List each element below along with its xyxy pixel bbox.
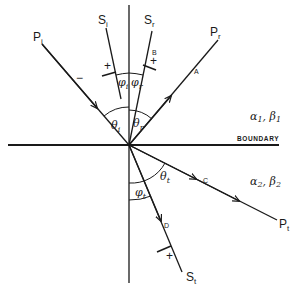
label-p-transmitted: Pt <box>279 217 290 233</box>
transmitted-s-amplitude: D <box>164 222 169 229</box>
angle-theta-i: θi <box>111 119 121 134</box>
angle-phi-i: φi <box>118 76 129 91</box>
label-p-incident: Pi <box>33 30 43 46</box>
label-s-transmitted: St <box>186 270 197 286</box>
transmitted-p-amplitude: C <box>203 177 208 184</box>
incident-s-polarity: + <box>104 59 111 73</box>
angle-theta-r: θr <box>133 117 145 132</box>
wave-reflection-diagram: Pi Si Sr Pr Pt St − + B + A C D + θi θr … <box>0 0 293 292</box>
phi-i-arc <box>116 73 129 75</box>
medium-1-label: α1, β1 <box>250 110 281 124</box>
theta-i-arc <box>104 107 129 116</box>
medium-2-label: α2, β2 <box>250 175 281 189</box>
reflected-s-polarity: + <box>150 54 157 68</box>
angle-phi-r: φr <box>131 76 144 91</box>
incident-p-polarity: − <box>76 71 83 85</box>
phi-r-arc <box>129 73 143 75</box>
label-s-incident: Si <box>98 13 108 29</box>
transmitted-s-polarity: + <box>166 249 173 263</box>
angle-phi-t: φt <box>135 186 147 201</box>
label-p-reflected: Pr <box>210 25 221 41</box>
label-s-reflected: Sr <box>144 13 155 29</box>
boundary-label: BOUNDARY <box>237 135 279 142</box>
reflected-p-amplitude: A <box>194 68 199 75</box>
angle-theta-t: θt <box>160 170 171 185</box>
